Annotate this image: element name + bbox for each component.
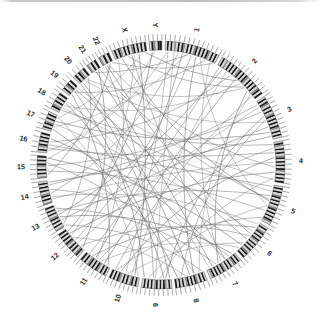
chromosome-label-10: 10 — [112, 293, 123, 303]
chromosome-label-18: 18 — [36, 86, 48, 98]
link-arc — [48, 158, 242, 245]
chromosome-label-21: 21 — [76, 43, 88, 55]
link-arc — [160, 178, 274, 279]
chromosome-label-8: 8 — [191, 297, 201, 303]
chromosome-label-20: 20 — [62, 54, 74, 66]
link-arc — [56, 121, 270, 139]
chromosome-label-5: 5 — [290, 206, 297, 216]
chromosome-label-12: 12 — [49, 250, 61, 262]
chromosome-label-15: 15 — [17, 162, 25, 171]
chromosome-label-14: 14 — [20, 192, 30, 203]
chromosome-label-11: 11 — [78, 276, 90, 287]
link-arcs-layer — [48, 52, 275, 279]
chromosome-label-6: 6 — [265, 249, 274, 258]
link-arc — [107, 65, 251, 234]
chromosome-label-16: 16 — [19, 133, 29, 143]
link-arc — [93, 225, 256, 256]
chromosome-label-7: 7 — [230, 280, 240, 288]
chromosome-label-4: 4 — [299, 156, 303, 165]
chromosome-label-22: 22 — [91, 35, 103, 46]
link-arc — [166, 116, 264, 278]
circos-svg-canvas: 12345678910111213141516171819202122XY — [0, 0, 322, 324]
circos-genome-plot: 12345678910111213141516171819202122XY — [0, 0, 322, 324]
chromosome-label-2: 2 — [250, 56, 259, 65]
chromosome-label-17: 17 — [25, 108, 36, 119]
chromosome-label-9: 9 — [151, 303, 160, 307]
chromosome-label-19: 19 — [49, 68, 61, 80]
chromosome-label-X: X — [120, 26, 130, 33]
chromosome-label-Y: Y — [151, 23, 160, 28]
chromosome-label-13: 13 — [30, 221, 41, 233]
chromosome-label-1: 1 — [192, 27, 202, 33]
chromosome-label-3: 3 — [286, 104, 293, 114]
